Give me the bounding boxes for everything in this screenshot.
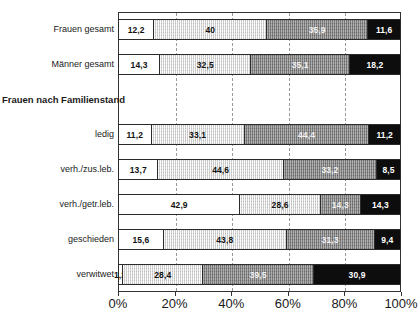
bars-layer: 12,24035,911,614,332,535,118,211,233,144… — [118, 12, 401, 292]
bar-segment-1[interactable]: 11,2 — [119, 125, 151, 144]
category-label-8: verwitwet — [2, 269, 118, 279]
bar-segment-4[interactable]: 18,2 — [349, 55, 400, 74]
segment-value-label: 12,2 — [128, 25, 145, 35]
segment-value-label: 8,5 — [382, 165, 394, 175]
category-label-6: verh./getr.leb. — [2, 199, 118, 209]
bar-segment-1[interactable]: 42,9 — [119, 195, 239, 214]
stacked-bar[interactable]: 15,643,831,39,4 — [118, 229, 401, 250]
bar-segment-2[interactable]: 40 — [153, 20, 266, 39]
category-label-5: verh./zus.leb. — [2, 164, 118, 174]
segment-value-label: 18,2 — [366, 60, 383, 70]
segment-value-label: 44,4 — [298, 130, 315, 140]
bar-segment-1[interactable]: 13,7 — [119, 160, 157, 179]
bar-segment-3[interactable]: 44,4 — [244, 125, 369, 144]
bar-row[interactable]: 12,24035,911,6 — [118, 19, 401, 40]
segment-value-label: 14,3 — [332, 200, 349, 210]
segment-value-label: 42,9 — [171, 200, 188, 210]
bar-segment-4[interactable]: 9,4 — [374, 230, 400, 249]
segment-value-label: 28,6 — [272, 200, 289, 210]
stacked-bar[interactable]: 11,233,144,411,2 — [118, 124, 401, 145]
bar-segment-2[interactable]: 32,5 — [159, 55, 250, 74]
bar-segment-2[interactable]: 33,1 — [151, 125, 244, 144]
bar-row[interactable]: 42,928,614,314,3 — [118, 194, 401, 215]
segment-value-label: 30,9 — [349, 270, 366, 280]
bar-segment-3[interactable]: 14,3 — [320, 195, 360, 214]
segment-value-label: 35,9 — [309, 25, 326, 35]
bar-segment-1[interactable]: 14,3 — [119, 55, 159, 74]
x-axis-tick-label: 20% — [162, 296, 188, 311]
bar-segment-2[interactable]: 28,6 — [239, 195, 319, 214]
segment-value-label: 32,5 — [197, 60, 214, 70]
bar-segment-1[interactable]: 15,6 — [119, 230, 163, 249]
bar-row[interactable]: 14,332,535,118,2 — [118, 54, 401, 75]
x-axis-tick-label: 80% — [331, 296, 357, 311]
segment-value-label: 9,4 — [381, 235, 393, 245]
segment-value-label: 40 — [205, 25, 215, 35]
segment-value-label: 31,3 — [322, 235, 339, 245]
segment-value-label: 13,7 — [130, 165, 147, 175]
stacked-bar[interactable]: 1,228,439,530,9 — [118, 264, 401, 285]
stacked-bar[interactable]: 13,744,633,28,5 — [118, 159, 401, 180]
bar-segment-4[interactable]: 11,6 — [367, 20, 400, 39]
bar-segment-4[interactable]: 8,5 — [376, 160, 400, 179]
bar-row[interactable]: 11,233,144,411,2 — [118, 124, 401, 145]
segment-value-label: 11,6 — [376, 25, 392, 35]
stacked-bar[interactable]: 12,24035,911,6 — [118, 19, 401, 40]
stacked-bar[interactable]: 42,928,614,314,3 — [118, 194, 401, 215]
segment-value-label: 44,6 — [212, 165, 229, 175]
segment-value-label: 28,4 — [154, 270, 171, 280]
segment-value-label: 14,3 — [372, 200, 389, 210]
x-axis-tick-label: 0% — [109, 296, 128, 311]
segment-value-label: 43,8 — [216, 235, 233, 245]
category-labels: Frauen gesamtMänner gesamtFrauen nach Fa… — [0, 12, 118, 292]
bar-segment-3[interactable]: 35,1 — [250, 55, 349, 74]
stacked-bar[interactable]: 14,332,535,118,2 — [118, 54, 401, 75]
bar-segment-3[interactable]: 35,9 — [266, 20, 367, 39]
bar-segment-3[interactable]: 39,5 — [202, 265, 313, 284]
bar-row[interactable]: 1,228,439,530,9 — [118, 264, 401, 285]
x-axis-tick-label: 60% — [275, 296, 301, 311]
segment-value-label: 39,5 — [250, 270, 267, 280]
stacked-bar-chart: Frauen gesamtMänner gesamtFrauen nach Fa… — [0, 0, 419, 318]
bar-row[interactable]: 15,643,831,39,4 — [118, 229, 401, 250]
bar-segment-4[interactable]: 30,9 — [313, 265, 400, 284]
category-label-2: Männer gesamt — [2, 59, 118, 69]
x-axis-tick-label: 100% — [384, 296, 417, 311]
bar-segment-3[interactable]: 33,2 — [283, 160, 376, 179]
bar-segment-2[interactable]: 28,4 — [122, 265, 202, 284]
segment-value-label: 35,1 — [292, 60, 309, 70]
segment-value-label: 11,2 — [127, 130, 143, 140]
bar-segment-2[interactable]: 44,6 — [157, 160, 282, 179]
bar-segment-4[interactable]: 11,2 — [368, 125, 400, 144]
x-axis: 0%20%40%60%80%100% — [118, 292, 401, 318]
bar-segment-4[interactable]: 14,3 — [360, 195, 400, 214]
segment-value-label: 33,2 — [321, 165, 338, 175]
category-label-4: ledig — [2, 129, 118, 139]
category-label-7: geschieden — [2, 234, 118, 244]
bar-segment-1[interactable]: 12,2 — [119, 20, 153, 39]
segment-value-label: 11,2 — [376, 130, 392, 140]
segment-value-label: 15,6 — [132, 235, 149, 245]
category-label-3: Frauen nach Familienstand — [2, 94, 118, 105]
segment-value-label: 14,3 — [131, 60, 148, 70]
bar-row[interactable]: 13,744,633,28,5 — [118, 159, 401, 180]
bar-segment-2[interactable]: 43,8 — [163, 230, 286, 249]
category-label-1: Frauen gesamt — [2, 24, 118, 34]
bar-segment-3[interactable]: 31,3 — [286, 230, 374, 249]
x-axis-tick-label: 40% — [218, 296, 244, 311]
segment-value-label: 33,1 — [189, 130, 206, 140]
